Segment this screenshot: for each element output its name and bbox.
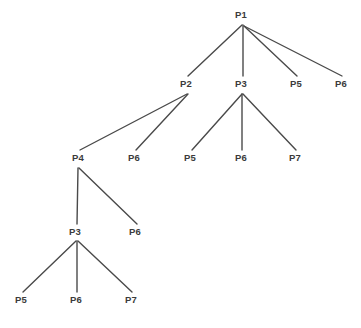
tree-node-label[interactable]: P1 <box>235 10 247 20</box>
tree-node-label[interactable]: P3 <box>235 79 247 89</box>
tree-edge <box>23 241 76 292</box>
tree-node-label[interactable]: P6 <box>335 79 347 89</box>
tree-edge <box>136 94 188 150</box>
tree-node-label[interactable]: P6 <box>129 227 141 237</box>
tree-node-label[interactable]: P3 <box>69 227 81 237</box>
tree-edge <box>188 25 242 76</box>
tree-node-label[interactable]: P5 <box>15 295 27 305</box>
tree-node-label[interactable]: P6 <box>128 153 140 163</box>
tree-edge-layer <box>0 0 361 328</box>
tree-node-label[interactable]: P6 <box>70 295 82 305</box>
tree-node-label[interactable]: P5 <box>290 79 302 89</box>
tree-node-label[interactable]: P7 <box>125 295 137 305</box>
tree-node-label[interactable]: P5 <box>184 153 196 163</box>
tree-edge <box>243 94 296 150</box>
tree-edge <box>77 168 78 224</box>
tree-node-label[interactable]: P6 <box>235 153 247 163</box>
tree-diagram: P1P2P3P5P6P4P6P5P6P7P3P6P5P6P7 <box>0 0 361 328</box>
tree-edge <box>78 241 132 292</box>
tree-node-label[interactable]: P7 <box>289 153 301 163</box>
tree-edge <box>244 26 342 76</box>
tree-edge <box>244 26 297 76</box>
tree-edge <box>192 94 242 150</box>
tree-edge <box>79 168 137 224</box>
tree-node-label[interactable]: P2 <box>180 79 192 89</box>
tree-edge <box>80 94 187 150</box>
tree-node-label[interactable]: P4 <box>72 153 84 163</box>
